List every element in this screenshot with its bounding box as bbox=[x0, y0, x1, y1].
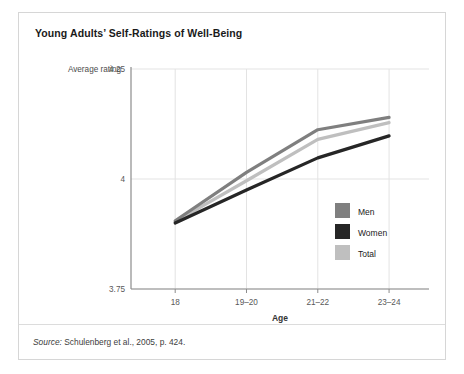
x-tick-label: 23–24 bbox=[378, 298, 401, 307]
legend-label-women: Women bbox=[358, 228, 387, 238]
figure-card: Young Adults’ Self-Ratings of Well-Being… bbox=[18, 12, 446, 360]
series-lines bbox=[175, 117, 389, 223]
legend-label-men: Men bbox=[358, 207, 375, 217]
axis-titles: Average ratingAge bbox=[68, 65, 288, 323]
y-tick-label: 4 bbox=[120, 175, 125, 184]
legend-label-total: Total bbox=[358, 249, 376, 259]
x-tick-label: 19–20 bbox=[235, 298, 258, 307]
chart-plot-area: 3.7544.25 1819–2021–2223–24 Average rati… bbox=[19, 13, 447, 361]
source-note: Source: Schulenberg et al., 2005, p. 424… bbox=[33, 337, 185, 347]
y-tick-labels: 3.7544.25 bbox=[109, 65, 125, 294]
y-axis-title: Average rating bbox=[68, 65, 122, 74]
chart-svg: 3.7544.25 1819–2021–2223–24 Average rati… bbox=[19, 13, 447, 361]
source-citation: Schulenberg et al., 2005, p. 424. bbox=[62, 337, 185, 347]
x-tick-label: 18 bbox=[171, 298, 181, 307]
y-tick-label: 3.75 bbox=[109, 285, 125, 294]
source-label: Source: bbox=[33, 337, 62, 347]
legend-swatch-total bbox=[335, 245, 350, 260]
legend-swatch-men bbox=[335, 203, 350, 218]
chart-legend: MenWomenTotal bbox=[335, 203, 387, 260]
x-tick-labels: 1819–2021–2223–24 bbox=[171, 298, 401, 307]
source-divider bbox=[19, 324, 445, 325]
series-line-men bbox=[175, 117, 389, 220]
x-axis-title: Age bbox=[272, 313, 288, 323]
legend-swatch-women bbox=[335, 224, 350, 239]
x-tick-label: 21–22 bbox=[306, 298, 329, 307]
gridlines bbox=[131, 69, 429, 289]
